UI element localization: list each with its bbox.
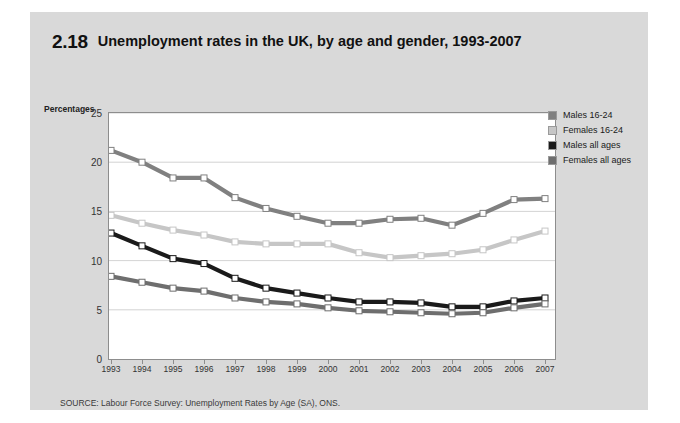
x-tick-mark: [421, 360, 422, 364]
x-tick-mark: [514, 360, 515, 364]
data-point-marker: [201, 232, 207, 238]
data-point-marker: [387, 299, 393, 305]
figure-heading: 2.18 Unemployment rates in the UK, by ag…: [52, 32, 612, 52]
data-point-marker: [542, 228, 548, 234]
data-point-marker: [294, 213, 300, 219]
data-point-marker: [232, 239, 238, 245]
x-tick-mark: [235, 360, 236, 364]
x-tick-mark: [483, 360, 484, 364]
chart-legend: Males 16-24Females 16-24Males all agesFe…: [548, 108, 644, 168]
data-point-marker: [139, 159, 145, 165]
x-tick-label: 2005: [474, 364, 493, 374]
data-point-marker: [449, 251, 455, 257]
data-point-marker: [480, 310, 486, 316]
data-point-marker: [387, 216, 393, 222]
legend-swatch-icon: [548, 111, 557, 120]
data-point-marker: [480, 247, 486, 253]
x-tick-label: 2007: [536, 364, 555, 374]
data-point-marker: [263, 205, 269, 211]
page-title: Unemployment rates in the UK, by age and…: [98, 32, 522, 51]
figure-panel: 2.18 Unemployment rates in the UK, by ag…: [30, 12, 648, 410]
data-point-marker: [356, 250, 362, 256]
data-point-marker: [139, 220, 145, 226]
data-point-marker: [542, 301, 548, 307]
data-point-marker: [449, 311, 455, 317]
data-point-marker: [232, 195, 238, 201]
data-point-marker: [263, 241, 269, 247]
data-point-marker: [449, 304, 455, 310]
x-tick-mark: [266, 360, 267, 364]
legend-label: Females 16-24: [563, 125, 623, 135]
data-point-marker: [480, 304, 486, 310]
figure-number: 2.18: [52, 32, 88, 52]
x-tick-label: 2006: [505, 364, 524, 374]
legend-swatch-icon: [548, 126, 557, 135]
data-point-marker: [480, 210, 486, 216]
data-point-marker: [109, 230, 114, 236]
legend-label: Females all ages: [563, 155, 631, 165]
x-tick-label: 1995: [164, 364, 183, 374]
data-point-marker: [418, 253, 424, 259]
data-point-marker: [511, 197, 517, 203]
data-point-marker: [294, 301, 300, 307]
data-point-marker: [356, 220, 362, 226]
data-point-marker: [294, 290, 300, 296]
data-point-marker: [109, 212, 114, 218]
x-tick-label: 1999: [288, 364, 307, 374]
y-tick-label: 5: [76, 304, 102, 315]
x-tick-mark: [328, 360, 329, 364]
data-point-marker: [325, 241, 331, 247]
data-point-marker: [201, 175, 207, 181]
data-point-marker: [109, 273, 114, 279]
x-tick-label: 2001: [350, 364, 369, 374]
x-tick-label: 2002: [381, 364, 400, 374]
legend-item-3: Females all ages: [548, 153, 644, 167]
data-point-marker: [356, 308, 362, 314]
x-tick-mark: [204, 360, 205, 364]
legend-swatch-icon: [548, 156, 557, 165]
y-tick-label: 25: [76, 108, 102, 119]
data-point-marker: [356, 299, 362, 305]
data-point-marker: [325, 220, 331, 226]
data-point-marker: [511, 305, 517, 311]
y-tick-label: 10: [76, 255, 102, 266]
x-tick-mark: [390, 360, 391, 364]
x-tick-label: 1994: [133, 364, 152, 374]
data-point-marker: [139, 243, 145, 249]
data-point-marker: [170, 227, 176, 233]
legend-item-2: Males all ages: [548, 138, 644, 152]
data-point-marker: [263, 299, 269, 305]
x-tick-mark: [297, 360, 298, 364]
legend-swatch-icon: [548, 141, 557, 150]
chart-plot-area: [108, 112, 556, 360]
data-point-marker: [232, 295, 238, 301]
data-point-marker: [325, 295, 331, 301]
data-point-marker: [449, 222, 455, 228]
source-note: SOURCE: Labour Force Survey: Unemploymen…: [60, 398, 340, 408]
x-tick-label: 2004: [443, 364, 462, 374]
x-tick-label: 2000: [319, 364, 338, 374]
x-tick-label: 1997: [226, 364, 245, 374]
data-point-marker: [387, 255, 393, 261]
x-tick-label: 1996: [195, 364, 214, 374]
data-point-marker: [170, 175, 176, 181]
legend-label: Males all ages: [563, 140, 621, 150]
data-point-marker: [418, 215, 424, 221]
data-point-marker: [418, 310, 424, 316]
chart-svg: [109, 113, 555, 359]
legend-item-0: Males 16-24: [548, 108, 644, 122]
data-point-marker: [201, 288, 207, 294]
data-point-marker: [542, 196, 548, 202]
data-point-marker: [263, 285, 269, 291]
data-point-marker: [325, 305, 331, 311]
data-point-marker: [542, 295, 548, 301]
x-tick-label: 1998: [257, 364, 276, 374]
x-tick-mark: [173, 360, 174, 364]
y-tick-label: 0: [76, 354, 102, 365]
x-tick-label: 2003: [412, 364, 431, 374]
data-point-marker: [170, 256, 176, 262]
legend-item-1: Females 16-24: [548, 123, 644, 137]
data-point-marker: [511, 298, 517, 304]
data-point-marker: [387, 309, 393, 315]
data-point-marker: [201, 261, 207, 267]
